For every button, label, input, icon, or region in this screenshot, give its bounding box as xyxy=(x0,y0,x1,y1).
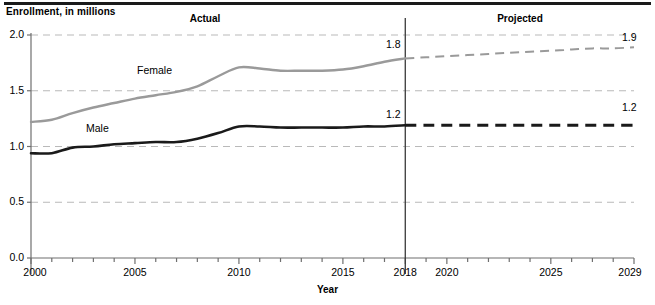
x-tick-label-2029: 2029 xyxy=(610,266,650,278)
value-label-male-divider: 1.2 xyxy=(386,108,401,120)
series-label-female: Female xyxy=(136,64,173,76)
x-tick-label-2005: 2005 xyxy=(115,266,155,278)
y-tick-label-1.5: 1.5 xyxy=(0,84,24,96)
value-label-male-end: 1.2 xyxy=(622,101,637,113)
x-tick-label-2010: 2010 xyxy=(219,266,259,278)
x-tick-label-2015: 2015 xyxy=(323,266,363,278)
x-tick-label-2000: 2000 xyxy=(15,266,55,278)
y-tick-label-2.0: 2.0 xyxy=(0,28,24,40)
y-tick-label-0.5: 0.5 xyxy=(0,195,24,207)
y-tick-label-1.0: 1.0 xyxy=(0,140,24,152)
series-line-projected-female xyxy=(405,47,634,58)
value-label-female-end: 1.9 xyxy=(622,31,637,43)
x-tick-label-2018: 2018 xyxy=(385,266,425,278)
enrollment-projection-chart: Enrollment, in millions Actual Projected… xyxy=(0,0,655,305)
x-tick-label-2025: 2025 xyxy=(531,266,571,278)
value-label-female-divider: 1.8 xyxy=(386,38,401,50)
x-axis-title: Year xyxy=(0,284,655,295)
series-label-male: Male xyxy=(85,122,110,134)
y-tick-label-0.0: 0.0 xyxy=(0,251,24,263)
plot-canvas xyxy=(0,0,655,305)
x-tick-label-2020: 2020 xyxy=(427,266,467,278)
series-line-actual-female xyxy=(31,58,405,122)
